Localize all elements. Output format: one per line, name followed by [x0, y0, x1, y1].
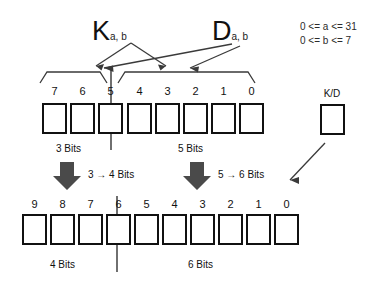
top-bit-label-3: 3: [155, 86, 180, 97]
kd-arrow: [290, 143, 325, 184]
constraint-a: 0 <= a <= 31: [300, 20, 357, 34]
diagram-canvas: Ka, b Da, b 0 <= a <= 31 0 <= b <= 7 7 6…: [0, 0, 379, 292]
label-d-subscript: a, b: [232, 31, 249, 42]
bottom-bit-label-9: 9: [22, 199, 47, 210]
bottom-bit-label-5: 5: [134, 199, 159, 210]
label-k-letter: K: [92, 16, 110, 46]
bottom-bit-label-2: 2: [218, 199, 243, 210]
top-cell-3[interactable]: [155, 103, 180, 134]
constraint-b: 0 <= b <= 7: [300, 34, 357, 48]
top-caption-left: 3 Bits: [56, 143, 81, 155]
k-arrow-group: [96, 43, 166, 71]
d-arrow-group: [104, 44, 240, 73]
bottom-cell-4[interactable]: [162, 214, 187, 245]
bottom-bit-label-0: 0: [274, 199, 299, 210]
top-bit-label-0: 0: [239, 86, 264, 97]
bottom-cell-2[interactable]: [218, 214, 243, 245]
brace-right-top: [118, 72, 255, 83]
bottom-cell-0[interactable]: [274, 214, 299, 245]
constraints-block: 0 <= a <= 31 0 <= b <= 7: [300, 20, 357, 48]
top-bit-label-1: 1: [211, 86, 236, 97]
bottom-bit-label-3: 3: [190, 199, 215, 210]
kd-cell[interactable]: [320, 104, 345, 135]
bottom-bit-label-4: 4: [162, 199, 187, 210]
top-bit-label-2: 2: [183, 86, 208, 97]
bottom-cell-3[interactable]: [190, 214, 215, 245]
kd-box-label: K/D: [315, 88, 349, 100]
bottom-bit-label-7: 7: [78, 199, 103, 210]
bottom-cell-9[interactable]: [22, 214, 47, 245]
bottom-bit-label-6: 6: [106, 199, 131, 210]
top-cell-5[interactable]: [98, 103, 123, 134]
bottom-cell-5[interactable]: [134, 214, 159, 245]
top-bit-label-6: 6: [70, 86, 95, 97]
top-cell-1[interactable]: [211, 103, 236, 134]
down-arrow-right: [183, 162, 211, 190]
bottom-bit-label-1: 1: [246, 199, 271, 210]
top-bit-label-4: 4: [127, 86, 152, 97]
transition-caption-right: 5 → 6 Bits: [218, 169, 264, 181]
bottom-cell-1[interactable]: [246, 214, 271, 245]
top-cell-6[interactable]: [70, 103, 95, 134]
bottom-cell-8[interactable]: [50, 214, 75, 245]
top-cell-4[interactable]: [127, 103, 152, 134]
label-d-letter: D: [212, 16, 232, 46]
transition-caption-left: 3 → 4 Bits: [88, 169, 134, 181]
bottom-cell-7[interactable]: [78, 214, 103, 245]
down-arrow-left: [53, 162, 81, 190]
bottom-cell-6[interactable]: [106, 214, 131, 245]
top-caption-right: 5 Bits: [178, 143, 203, 155]
label-d: Da, b: [212, 18, 248, 45]
bottom-caption-right: 6 Bits: [188, 259, 213, 271]
top-cell-2[interactable]: [183, 103, 208, 134]
top-bit-label-5: 5: [98, 86, 123, 97]
label-k-subscript: a, b: [110, 31, 127, 42]
top-cell-0[interactable]: [239, 103, 264, 134]
top-bit-label-7: 7: [42, 86, 67, 97]
bottom-bit-label-8: 8: [50, 199, 75, 210]
top-cell-7[interactable]: [42, 103, 67, 134]
label-k: Ka, b: [92, 18, 127, 45]
brace-left-top: [40, 72, 107, 83]
bottom-caption-left: 4 Bits: [50, 259, 75, 271]
